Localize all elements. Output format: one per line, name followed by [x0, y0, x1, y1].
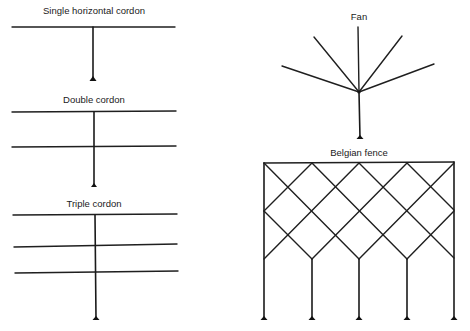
triple-cordon-panel: Triple cordon	[13, 198, 178, 320]
lattice-ascending	[264, 163, 454, 259]
panel-label-fan: Fan	[351, 11, 367, 22]
belgian-fence-panel: Belgian fence	[261, 147, 458, 320]
trunk-base-icon	[90, 76, 97, 81]
trunk	[95, 215, 96, 319]
trunk-base-icon	[93, 316, 100, 320]
trunk-base-icon	[451, 316, 458, 320]
trunk-base-icon	[309, 316, 316, 320]
panel-label-double: Double cordon	[63, 94, 125, 105]
fan-panel: Fan	[282, 11, 434, 139]
trunk-base-icon	[261, 316, 268, 320]
espalier-forms-diagram: Single horizontal cordon Double cordon T…	[0, 0, 470, 331]
trunk	[359, 92, 360, 138]
fan-branch-1	[282, 66, 359, 92]
cordon-arm-bottom	[15, 271, 178, 273]
double-cordon-panel: Double cordon	[12, 94, 176, 187]
panel-label-belgian: Belgian fence	[330, 147, 388, 158]
single-cordon-panel: Single horizontal cordon	[12, 5, 175, 81]
panel-label-triple: Triple cordon	[66, 198, 121, 209]
trunk-base-icon	[91, 183, 97, 187]
fan-branch-3	[358, 27, 359, 92]
trunk-base-icon	[356, 316, 363, 320]
trunk-base-icon	[404, 316, 411, 320]
panel-label-single: Single horizontal cordon	[43, 5, 145, 16]
trunk-base-icon	[357, 135, 364, 139]
